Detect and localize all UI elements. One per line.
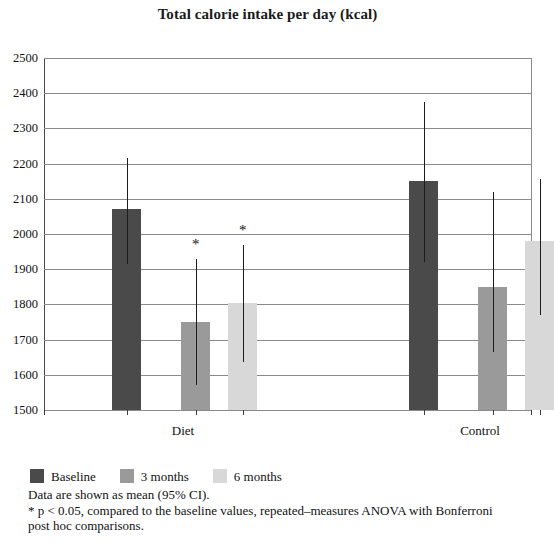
legend-item: 6 months <box>213 469 282 483</box>
x-tick <box>540 410 541 415</box>
error-bar <box>493 192 494 352</box>
legend-swatch-icon <box>120 469 134 483</box>
y-tick-label: 2300 <box>2 122 44 135</box>
y-tick-label: 2000 <box>2 228 44 241</box>
x-tick <box>424 410 425 415</box>
x-tick <box>493 410 494 415</box>
footnote-line-3: post hoc comparisons. <box>28 518 528 534</box>
y-tick-label: 1700 <box>2 334 44 347</box>
legend-swatch-icon <box>213 469 227 483</box>
legend-swatch-icon <box>30 469 44 483</box>
gridline <box>44 164 532 165</box>
x-category-label: Control <box>420 424 540 437</box>
chart-legend: Baseline3 months6 months <box>30 467 306 485</box>
significance-asterisk: * <box>239 223 247 238</box>
chart-footnotes: Data are shown as mean (95% CI). * p < 0… <box>28 487 528 534</box>
legend-label: 3 months <box>141 470 189 483</box>
plot-area: ** <box>44 58 532 410</box>
x-tick <box>531 410 532 415</box>
y-tick-label: 2400 <box>2 87 44 100</box>
legend-label: 6 months <box>234 470 282 483</box>
gridline <box>44 199 532 200</box>
gridline <box>44 128 532 129</box>
y-tick-label: 1800 <box>2 298 44 311</box>
error-bar <box>127 158 128 264</box>
footnote-line-2: * p < 0.05, compared to the baseline val… <box>28 503 528 519</box>
footnote-line-1: Data are shown as mean (95% CI). <box>28 487 528 503</box>
gridline <box>44 410 532 411</box>
error-bar <box>243 245 244 363</box>
y-tick-label: 1900 <box>2 263 44 276</box>
x-tick <box>44 410 45 415</box>
y-tick-label: 2500 <box>2 52 44 65</box>
error-bar <box>196 259 197 386</box>
x-tick <box>243 410 244 415</box>
legend-item: Baseline <box>30 469 96 483</box>
error-bar <box>424 102 425 262</box>
y-tick-label: 1600 <box>2 369 44 382</box>
x-tick <box>127 410 128 415</box>
x-category-label: Diet <box>123 424 243 437</box>
x-tick <box>196 410 197 415</box>
chart-title: Total calorie intake per day (kcal) <box>0 6 535 23</box>
y-tick-label: 2200 <box>2 158 44 171</box>
legend-item: 3 months <box>120 469 189 483</box>
y-tick-label: 1500 <box>2 404 44 417</box>
legend-label: Baseline <box>51 470 96 483</box>
gridline <box>44 93 532 94</box>
error-bar <box>540 179 541 315</box>
gridline <box>44 58 532 59</box>
y-axis-tick-labels: 2500240023002200210020001900180017001600… <box>0 58 44 410</box>
significance-asterisk: * <box>192 237 200 252</box>
y-tick-label: 2100 <box>2 193 44 206</box>
